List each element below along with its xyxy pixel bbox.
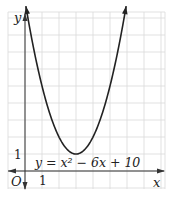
y-axis-label: y: [13, 10, 22, 25]
x-axis-label: x: [153, 175, 161, 190]
origin-label: O: [11, 174, 22, 189]
parabola-chart: y x O 1 1 y = x² − 6x + 10: [0, 0, 172, 198]
equation-label: y = x² − 6x + 10: [34, 155, 140, 170]
x-tick-label-1: 1: [39, 174, 47, 188]
y-tick-label-1: 1: [14, 148, 22, 162]
